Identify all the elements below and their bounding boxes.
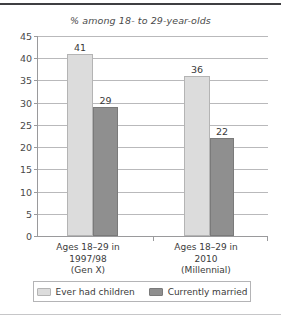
y-tick-label: 45 <box>20 31 32 42</box>
x-category-label-gen-x: Ages 18–29 in 1997/98 (Gen X) <box>40 242 136 277</box>
y-tick-mark <box>34 58 38 59</box>
y-tick-label: 25 <box>20 120 32 131</box>
legend-item-ever-had-children[interactable]: Ever had children <box>37 287 135 297</box>
legend-item-currently-married[interactable]: Currently married <box>149 287 248 297</box>
y-tick-mark <box>34 125 38 126</box>
x-category-label-millennial: Ages 18–29 in 2010 (Millennial) <box>158 242 254 277</box>
chart-title: % among 18- to 29-year-olds <box>0 15 281 26</box>
bar-currently-married-millennial[interactable]: 22 <box>210 138 234 236</box>
y-tick-label: 20 <box>20 142 32 153</box>
y-tick-label: 0 <box>26 231 32 242</box>
y-tick-label: 15 <box>20 164 32 175</box>
y-tick-mark <box>34 36 38 37</box>
bar-value-label: 22 <box>216 126 228 137</box>
legend-swatch-icon <box>37 288 51 296</box>
bar-value-label: 36 <box>191 64 203 75</box>
y-tick-mark <box>34 214 38 215</box>
bar-value-label: 29 <box>99 95 111 106</box>
x-tick-mark <box>267 236 268 241</box>
y-tick-mark <box>34 169 38 170</box>
x-category-line: 2010 <box>158 254 254 266</box>
bar-ever-had-children-gen-x[interactable]: 41 <box>67 54 93 236</box>
x-category-line: Ages 18–29 in <box>158 242 254 254</box>
bottom-divider <box>0 314 281 315</box>
y-tick-mark <box>34 236 38 237</box>
gridline <box>38 36 268 37</box>
y-tick-label: 30 <box>20 98 32 109</box>
bar-currently-married-gen-x[interactable]: 29 <box>93 107 118 236</box>
plot-area: 45 40 35 30 25 20 15 10 5 0 41 <box>38 36 268 236</box>
x-category-line: Ages 18–29 in <box>40 242 136 254</box>
y-tick-mark <box>34 147 38 148</box>
x-category-line: 1997/98 <box>40 254 136 266</box>
x-category-line: (Millennial) <box>158 265 254 277</box>
y-tick-mark <box>34 192 38 193</box>
y-tick-label: 5 <box>26 209 32 220</box>
legend-swatch-icon <box>149 288 163 296</box>
chart-figure: % among 18- to 29-year-olds 45 40 35 30 … <box>0 0 281 323</box>
bar-ever-had-children-millennial[interactable]: 36 <box>184 76 210 236</box>
chart-legend: Ever had children Currently married <box>33 281 251 302</box>
legend-label: Ever had children <box>56 287 135 297</box>
x-category-line: (Gen X) <box>40 265 136 277</box>
y-tick-label: 10 <box>20 187 32 198</box>
x-tick-mark <box>153 236 154 241</box>
top-divider <box>0 3 281 5</box>
y-tick-label: 35 <box>20 75 32 86</box>
y-axis-line <box>37 36 38 237</box>
y-tick-mark <box>34 103 38 104</box>
bar-value-label: 41 <box>74 42 86 53</box>
y-tick-mark <box>34 80 38 81</box>
y-tick-label: 40 <box>20 53 32 64</box>
legend-label: Currently married <box>168 287 248 297</box>
